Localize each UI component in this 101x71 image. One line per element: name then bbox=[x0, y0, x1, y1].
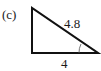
triangle-figure bbox=[0, 0, 101, 71]
angle-arc bbox=[79, 44, 81, 53]
hypotenuse-label: 4.8 bbox=[64, 17, 80, 30]
base-label: 4 bbox=[61, 57, 68, 70]
